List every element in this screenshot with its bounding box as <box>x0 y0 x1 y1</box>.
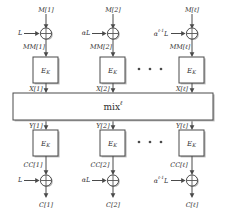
arrowhead-offset-bottom-1 <box>35 178 39 183</box>
arrowhead-offset-top-last <box>181 31 185 36</box>
cipher-out-label-2: C[2] <box>106 201 120 209</box>
masked-cipher-label-1: CC[1] <box>24 161 43 169</box>
message-in-label-2: M[2] <box>104 6 121 14</box>
arrowhead-offset-bottom-last <box>181 178 185 183</box>
masked-cipher-label-2: CC[2] <box>91 161 110 169</box>
arrowhead-masked-message-last <box>190 52 195 57</box>
offset-bottom-label-last: αℓ-1L <box>154 175 169 184</box>
arrowhead-masked-message-2 <box>111 52 116 57</box>
offset-top-label-2: αL <box>82 29 91 37</box>
offset-top-label-last: αℓ-1L <box>154 28 169 37</box>
ellipsis-bottom-dot-1 <box>138 141 141 144</box>
mix-in-label-1: X[1] <box>28 85 43 93</box>
message-in-label-last: M[ℓ] <box>184 6 200 14</box>
arrowhead-mix-out-last <box>190 125 195 130</box>
mix-in-label-last: X[ℓ] <box>175 85 189 93</box>
mix-out-label-last: Y[ℓ] <box>176 122 188 130</box>
cipher-out-label-1: C[1] <box>39 201 53 209</box>
arrowhead-offset-bottom-2 <box>102 178 106 183</box>
mix-out-label-2: Y[2] <box>96 122 110 130</box>
ellipsis-bottom-dot-3 <box>160 141 163 144</box>
ellipsis-bottom-dot-2 <box>149 141 152 144</box>
masked-message-label-last: MM[ℓ] <box>169 43 191 51</box>
mix-block: mixℓ <box>13 93 215 121</box>
arrowhead-masked-cipher-1 <box>44 170 49 175</box>
arrowhead-offset-top-1 <box>35 31 39 36</box>
message-in-label-1: M[1] <box>37 6 54 14</box>
arrowhead-mix-in-2 <box>111 88 116 93</box>
ellipsis-top-dot-3 <box>160 68 163 71</box>
arrowhead-mix-in-1 <box>44 88 49 93</box>
arrowhead-masked-cipher-last <box>190 170 195 175</box>
arrowhead-offset-top-2 <box>102 31 106 36</box>
offset-bottom-label-2: αL <box>82 176 91 184</box>
ellipsis-top <box>138 68 163 71</box>
ellipsis-top-dot-1 <box>138 68 141 71</box>
arrowhead-mix-in-last <box>190 88 195 93</box>
arrowhead-mix-out-1 <box>44 125 49 130</box>
arrowhead-cipher-out-last <box>190 193 195 198</box>
arrowhead-mix-out-2 <box>111 125 116 130</box>
cipher-mode-diagram: M[1] L MM[1] EK X[1] <box>0 0 226 213</box>
ellipsis-bottom <box>138 141 163 144</box>
cipher-out-label-last: C[ℓ] <box>186 201 199 209</box>
offset-top-label-1: L <box>17 29 22 37</box>
arrowhead-masked-message-1 <box>44 52 49 57</box>
arrowhead-masked-cipher-2 <box>111 170 116 175</box>
diagram-canvas: M[1] L MM[1] EK X[1] <box>0 0 226 213</box>
mix-in-label-2: X[2] <box>95 85 110 93</box>
masked-message-label-2: MM[2] <box>89 43 113 51</box>
mix-out-label-1: Y[1] <box>29 122 43 130</box>
masked-message-label-1: MM[1] <box>22 43 46 51</box>
masked-cipher-label-last: CC[ℓ] <box>170 161 188 169</box>
ellipsis-top-dot-2 <box>149 68 152 71</box>
arrowhead-cipher-out-1 <box>44 193 49 198</box>
offset-bottom-label-1: L <box>17 176 22 184</box>
arrowhead-cipher-out-2 <box>111 193 116 198</box>
